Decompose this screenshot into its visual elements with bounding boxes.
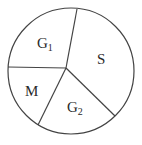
divider-m-g2 <box>38 68 66 125</box>
segment-label-g1: G1 <box>37 35 53 53</box>
cycle-circle <box>8 8 134 134</box>
cell-cycle-diagram: G1 S G2 M <box>0 0 142 145</box>
segment-label-m: M <box>25 83 38 99</box>
divider-g1-s <box>66 9 77 68</box>
segment-label-s: S <box>97 51 105 67</box>
divider-g1-m <box>8 67 66 68</box>
segment-label-g2: G2 <box>67 99 83 117</box>
